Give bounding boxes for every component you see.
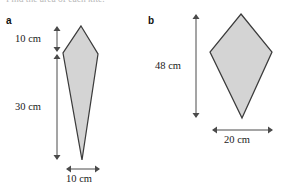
dimension-label-b-20cm-horizontal: 20 cm [224, 134, 250, 145]
kite-area-figure: Find the area of each kite. a 10 cm 30 c… [0, 0, 288, 188]
dimension-arrow-b-20cm-horizontal [212, 127, 273, 134]
kite-shape-b [210, 14, 272, 118]
dimension-arrow-b-48cm-vertical [193, 14, 200, 118]
dimension-label-b-48cm-vertical: 48 cm [155, 60, 181, 71]
figure-b-graphics [0, 0, 288, 188]
